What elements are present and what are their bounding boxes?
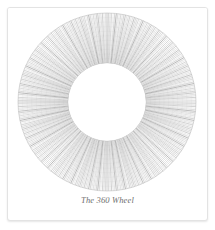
- screenshot-root: The 360 Wheel: [0, 0, 215, 230]
- wheel-hub: [68, 63, 145, 140]
- figure-card: The 360 Wheel: [7, 7, 208, 221]
- figure-caption: The 360 Wheel: [8, 195, 207, 206]
- wheel-figure: [7, 8, 208, 194]
- wheel-diagram: [7, 8, 208, 194]
